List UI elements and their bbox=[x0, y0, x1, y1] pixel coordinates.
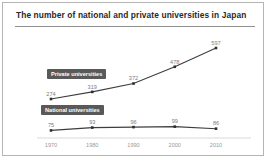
data-point bbox=[173, 65, 176, 68]
x-tick-label: 2010 bbox=[210, 142, 222, 148]
value-label: 597 bbox=[211, 40, 220, 46]
value-label: 99 bbox=[172, 118, 178, 124]
value-label: 75 bbox=[48, 122, 54, 128]
data-point bbox=[215, 47, 218, 50]
value-label: 319 bbox=[88, 84, 97, 90]
series-label-private-universities: Private universities bbox=[47, 69, 106, 79]
value-label: 96 bbox=[130, 119, 136, 125]
value-label: 93 bbox=[89, 119, 95, 125]
data-point bbox=[215, 127, 218, 130]
data-point bbox=[132, 126, 135, 129]
value-label: 86 bbox=[213, 120, 219, 126]
x-tick-label: 1990 bbox=[127, 142, 139, 148]
data-point bbox=[173, 125, 176, 128]
value-label: 478 bbox=[170, 59, 179, 65]
data-point bbox=[50, 98, 53, 101]
line-chart: 1970198019902000201027431937247859775939… bbox=[3, 3, 264, 156]
x-tick-label: 2000 bbox=[169, 142, 181, 148]
x-tick-label: 1980 bbox=[86, 142, 98, 148]
value-label: 274 bbox=[46, 91, 55, 97]
x-tick-label: 1970 bbox=[45, 142, 57, 148]
chart-card: The number of national and private unive… bbox=[2, 2, 264, 156]
series-label-national-universities: National universities bbox=[41, 105, 104, 115]
data-point bbox=[132, 82, 135, 85]
data-point bbox=[91, 91, 94, 94]
data-point bbox=[50, 129, 53, 132]
data-point bbox=[91, 126, 94, 129]
value-label: 372 bbox=[129, 75, 138, 81]
